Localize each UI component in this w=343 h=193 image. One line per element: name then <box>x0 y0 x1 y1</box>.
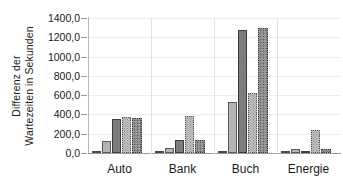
bar <box>311 130 320 153</box>
y-axis-tick-label: 0,0 <box>40 148 80 159</box>
bar <box>248 93 257 153</box>
bar <box>122 117 131 153</box>
bar <box>301 151 310 153</box>
bar <box>238 30 247 153</box>
bar <box>195 140 204 153</box>
y-axis-tick-label: 1200,0 <box>40 32 80 43</box>
y-axis-title-line-2: Wartezeiten in Sekunden <box>23 26 36 145</box>
bar <box>132 118 141 153</box>
bar-group <box>277 18 340 153</box>
bar <box>165 148 174 153</box>
bar <box>281 151 290 153</box>
y-axis-tick <box>81 76 87 77</box>
y-axis-tick <box>81 153 87 154</box>
bar <box>102 141 111 153</box>
bar <box>291 149 300 153</box>
y-axis-tick-label: 600,0 <box>40 90 80 101</box>
bar <box>321 149 330 153</box>
y-axis-tick-label: 800,0 <box>40 71 80 82</box>
y-axis-tick <box>81 57 87 58</box>
y-axis-tick-label: 400,0 <box>40 109 80 120</box>
bar <box>228 102 237 153</box>
bar <box>155 151 164 153</box>
x-axis-label-energie: Energie <box>277 162 340 176</box>
y-axis-tick <box>81 18 87 19</box>
bar-group <box>88 18 151 153</box>
x-axis-label-bank: Bank <box>151 162 214 176</box>
y-axis-tick <box>81 114 87 115</box>
y-axis-tick-label: 1400,0 <box>40 13 80 24</box>
bar-chart: Differenz der Wartezeiten in Sekunden 0,… <box>0 0 343 193</box>
bar <box>175 140 184 153</box>
y-axis-tick-label: 200,0 <box>40 129 80 140</box>
bar-group <box>214 18 277 153</box>
y-axis-tick <box>81 37 87 38</box>
y-axis-title: Differenz der Wartezeiten in Sekunden <box>0 0 46 172</box>
bar <box>112 119 121 153</box>
y-axis-tick <box>81 95 87 96</box>
plot-area <box>88 18 340 153</box>
y-axis-title-line-1: Differenz der <box>10 26 23 145</box>
bar <box>185 116 194 153</box>
bar <box>218 151 227 153</box>
bar-group <box>151 18 214 153</box>
y-axis-tick <box>81 134 87 135</box>
bar <box>92 151 101 153</box>
x-axis-label-auto: Auto <box>88 162 151 176</box>
x-axis-label-buch: Buch <box>214 162 277 176</box>
y-axis-tick-label: 1000,0 <box>40 52 80 63</box>
bar <box>258 28 267 153</box>
